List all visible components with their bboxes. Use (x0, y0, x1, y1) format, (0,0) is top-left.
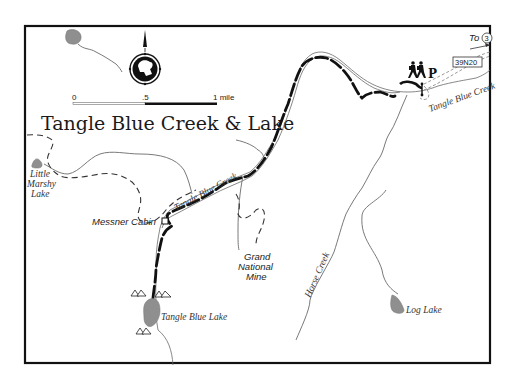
parking-icon: P (428, 67, 437, 81)
label-log-lake: Log Lake (405, 305, 442, 315)
map-title: Tangle Blue Creek & Lake (41, 112, 294, 134)
label-little-marshy-lake-1: Little (29, 169, 50, 179)
trail-map: 0 .5 1 mile Tangle Blue Creek & Lake Lit… (0, 0, 529, 387)
scale-tick-half: .5 (142, 93, 149, 102)
scale-tick-1mile: 1 mile (213, 93, 235, 102)
label-highway-3: 3 (485, 34, 489, 43)
label-tangle-blue-lake: Tangle Blue Lake (161, 312, 227, 322)
label-little-marshy-lake-3: Lake (30, 189, 49, 199)
label-messner-cabin: Messner Cabin (92, 216, 156, 227)
label-road-39n20: 39N20 (455, 58, 477, 67)
upper-left-lake (66, 30, 81, 45)
label-to: To (469, 32, 479, 43)
label-little-marshy-lake-2: Marshy (26, 179, 57, 189)
label-grand-national-mine-3: Mine (246, 271, 267, 282)
scale-tick-0: 0 (72, 93, 77, 102)
cabin-square-icon (162, 218, 168, 224)
